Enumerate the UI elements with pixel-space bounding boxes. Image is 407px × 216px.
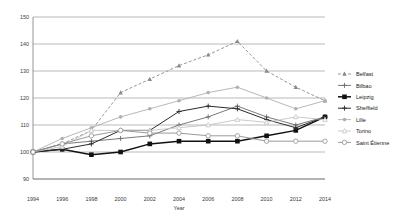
data-point <box>60 137 64 141</box>
data-point <box>118 128 122 132</box>
x-axis-title: Year <box>174 205 185 211</box>
legend-marker <box>342 140 346 144</box>
x-axis-tick-label: 2012 <box>290 196 302 202</box>
data-point <box>265 96 269 100</box>
legend-label: Bilbao <box>356 83 372 89</box>
legend-marker <box>343 118 347 122</box>
x-axis-tick-label: 2006 <box>202 196 214 202</box>
x-axis-tick-label: 1996 <box>56 196 68 202</box>
series-belfast <box>31 39 327 154</box>
data-point <box>60 142 64 146</box>
data-point <box>206 139 211 144</box>
line-chart: 9010011012013014015019941996199820002002… <box>0 0 407 216</box>
legend-marker <box>342 72 346 76</box>
data-point <box>148 131 152 135</box>
legend-label: Leipzig <box>356 94 374 100</box>
data-point <box>31 150 35 154</box>
data-point <box>294 107 298 111</box>
data-point <box>294 115 298 119</box>
legend-marker <box>342 129 346 133</box>
y-axis-tick-label: 130 <box>20 68 29 74</box>
x-axis-tick-label: 2014 <box>319 196 331 202</box>
data-point <box>235 134 239 138</box>
data-point <box>294 139 298 143</box>
x-axis-tick-label: 1994 <box>27 196 39 202</box>
legend-label: Torino <box>356 128 371 134</box>
legend-label: Saint Étienne <box>356 140 389 146</box>
data-point <box>148 77 152 81</box>
data-point <box>264 139 268 143</box>
y-axis-tick-label: 150 <box>20 14 29 20</box>
data-point <box>177 131 181 135</box>
y-axis-tick-label: 110 <box>20 122 29 128</box>
x-axis-tick-label: 2008 <box>231 196 243 202</box>
data-point <box>264 134 269 139</box>
legend-marker <box>342 95 347 100</box>
y-axis-tick-label: 120 <box>20 95 29 101</box>
x-axis-tick-label: 1998 <box>85 196 97 202</box>
data-point <box>235 39 239 43</box>
data-point <box>206 91 210 95</box>
legend-label: Lille <box>356 117 366 123</box>
data-point <box>323 99 327 103</box>
y-axis-tick-label: 100 <box>20 149 29 155</box>
data-point <box>177 99 181 103</box>
x-axis-tick-label: 2002 <box>144 196 156 202</box>
data-point <box>323 139 327 143</box>
data-point <box>236 85 240 89</box>
x-axis-tick-label: 2010 <box>261 196 273 202</box>
legend: BelfastBilbaoLeipzigSheffieldLilleTorino… <box>338 71 389 145</box>
data-point <box>235 117 239 121</box>
x-axis-tick-label: 2004 <box>173 196 185 202</box>
data-point <box>294 85 298 89</box>
x-axis-tick-label: 2000 <box>115 196 127 202</box>
gridlines-group: 90100110120130140150 <box>20 14 325 182</box>
x-axis-labels-group: 1994199619982000200220042006200820102012… <box>27 196 331 211</box>
data-point <box>148 107 152 111</box>
legend-label: Sheffield <box>356 105 378 111</box>
y-axis-tick-label: 90 <box>23 176 29 182</box>
data-point <box>89 134 93 138</box>
data-point <box>148 142 153 147</box>
data-point <box>89 152 94 157</box>
data-point <box>119 115 123 119</box>
chart-canvas: 9010011012013014015019941996199820002002… <box>0 0 407 216</box>
data-point <box>206 134 210 138</box>
data-point <box>235 139 240 144</box>
data-point <box>177 139 182 144</box>
data-point <box>118 150 123 155</box>
legend-label: Belfast <box>356 71 374 77</box>
data-point <box>206 123 210 127</box>
y-axis-tick-label: 140 <box>20 41 29 47</box>
